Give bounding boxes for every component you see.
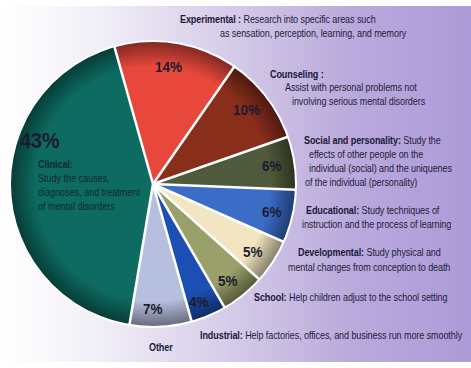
pct-educational: 6% xyxy=(262,203,282,220)
annotation-social: Social and personality: Study the xyxy=(304,134,441,147)
annotation-educational-line2: instruction and the process of learning xyxy=(302,218,451,231)
pct-developmental: 5% xyxy=(243,243,263,260)
annotation-counseling-line1: Assist with personal problems not xyxy=(285,81,417,94)
annotation-other: Other xyxy=(149,341,173,354)
pct-experimental: 14% xyxy=(155,58,182,75)
annotation-educational: Educational: Study techniques of xyxy=(306,204,439,217)
pct-clinical: 43% xyxy=(20,128,60,154)
annotation-developmental: Developmental: Study physical and xyxy=(298,246,441,259)
pct-counseling: 10% xyxy=(233,101,260,118)
annotation-experimental: Experimental : Research into specific ar… xyxy=(180,13,376,26)
annotation-counseling-line2: involving serious mental disorders xyxy=(292,95,425,108)
clinical-title: Clinical: xyxy=(38,157,140,171)
pct-industrial: 4% xyxy=(189,293,209,310)
annotation-social-line4: of the individual (personality) xyxy=(305,176,417,189)
pct-school: 5% xyxy=(218,272,238,289)
annotation-developmental-line2: mental changes from conception to death xyxy=(288,261,450,274)
annotation-school: School: Help children adjust to the scho… xyxy=(254,291,447,304)
pct-other: 7% xyxy=(143,300,163,317)
annotation-industrial: Industrial: Help factories, offices, and… xyxy=(200,329,462,342)
annotation-social-line2: effects of other people on the xyxy=(309,148,423,161)
clinical-description: Clinical: Study the causes, diagnoses, a… xyxy=(38,157,140,213)
annotation-counseling: Counseling : xyxy=(270,68,324,81)
annotation-social-line3: individual (social) and the uniquenes xyxy=(309,162,452,175)
pct-social: 6% xyxy=(262,157,282,174)
annotation-experimental-line2: as sensation, perception, learning, and … xyxy=(220,27,406,40)
